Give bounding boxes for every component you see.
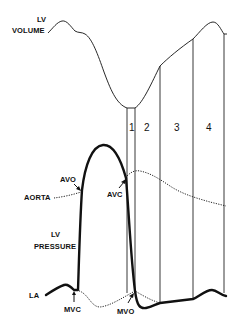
lv-pressure-label-line2: PRESSURE (34, 242, 76, 251)
avc-label: AVC (107, 190, 123, 199)
aorta-label: AORTA (24, 193, 51, 202)
avc-arrow-icon (119, 179, 126, 188)
lv-volume-label-line1: LV (37, 15, 46, 24)
mvo-label: MVO (117, 307, 134, 316)
aorta-pressure-curve-diastolic (127, 171, 226, 206)
mvo-arrow-icon (128, 293, 134, 303)
avo-label: AVO (60, 175, 76, 184)
avo-arrow-icon (74, 184, 81, 191)
mvc-arrow-icon (72, 291, 76, 302)
cardiac-cycle-diagram: LV VOLUME 1 2 3 4 LV PRESSURE AORTA LA A… (0, 0, 240, 324)
lv-pressure-curve (46, 145, 226, 308)
phase-label-3: 3 (174, 122, 180, 133)
mvc-label: MVC (64, 305, 81, 314)
lv-pressure-label-line1: LV (51, 230, 60, 239)
phase-label-4: 4 (206, 122, 212, 133)
phase-label-2: 2 (144, 122, 150, 133)
phase-label-1: 1 (129, 122, 135, 133)
la-pressure-curve (74, 290, 160, 307)
lv-volume-label-line2: VOLUME (12, 26, 45, 35)
lv-volume-curve (48, 21, 227, 108)
aorta-pressure-curve (54, 192, 81, 198)
la-label: LA (29, 291, 40, 300)
